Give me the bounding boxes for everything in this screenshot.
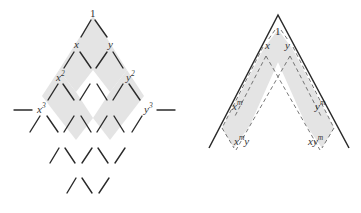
right-cone-diagram: 1 x y xm ym xmy xym [209, 15, 349, 150]
shaded-region-upper [59, 16, 127, 92]
label-y: y [107, 38, 113, 50]
label-one: 1 [90, 7, 96, 19]
figure: 1 x y x2 y2 x3 y3 1 x y xm ym xmy xym [0, 0, 361, 213]
label-y: y [284, 39, 290, 51]
label-y-cubed: y3 [143, 101, 153, 115]
label-one: 1 [275, 25, 281, 37]
label-x: x [73, 38, 79, 50]
label-x-cubed: x3 [36, 101, 46, 115]
left-lattice-diagram: 1 x y x2 y2 x3 y3 [14, 7, 175, 193]
shaded-strip-right [269, 30, 334, 148]
label-x-power-m-y: xmy [233, 133, 249, 147]
label-x: x [264, 39, 270, 51]
